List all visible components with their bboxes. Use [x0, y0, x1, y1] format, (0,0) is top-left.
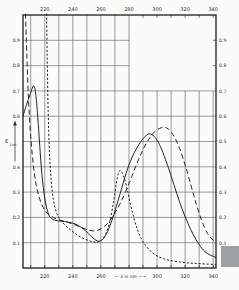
right-axis-label: 0.2 [219, 215, 226, 220]
top-axis-label: 260 [96, 6, 106, 12]
y-axis-arrowhead [13, 121, 17, 126]
curve-short-dash [47, 14, 216, 265]
right-axis-label: 0.5 [219, 139, 226, 144]
left-axis-label: 0.8 [13, 63, 20, 68]
top-axis-label: 220 [40, 6, 50, 12]
left-axis-label: 0.3 [13, 190, 20, 195]
right-axis-label: 0.6 [219, 114, 226, 119]
top-axis-label: 280 [124, 6, 134, 12]
left-axis-label: 0.2 [13, 215, 20, 220]
right-axis-label: 0.7 [219, 89, 226, 94]
top-axis-label: 320 [180, 6, 190, 12]
bottom-axis-label: 320 [180, 273, 190, 279]
bottom-axis-label: 300 [152, 273, 162, 279]
left-axis-label: 0.4 [13, 165, 20, 170]
right-axis-label: 0.9 [219, 38, 226, 43]
bottom-axis-label: 260 [96, 273, 106, 279]
left-axis-label: 0.9 [13, 38, 20, 43]
y-axis-title: E [5, 138, 8, 144]
curve-long-dash [26, 14, 217, 243]
right-axis-label: 0.1 [219, 241, 226, 246]
right-axis-label: 0.4 [219, 165, 226, 170]
top-axis-label: 300 [152, 6, 162, 12]
bottom-axis-label: 220 [40, 273, 50, 279]
scan-artifact [221, 246, 239, 267]
top-axis-label: 340 [208, 6, 218, 12]
bottom-axis-label: 340 [208, 273, 218, 279]
top-axis-label: 240 [68, 6, 78, 12]
y-axis-title-sub: 1cm [10, 143, 17, 147]
left-axis-label: 0.6 [13, 114, 20, 119]
left-axis-label: 0.1 [13, 241, 20, 246]
x-axis-title: — λ in nm —→ [115, 274, 146, 279]
bottom-axis-label: 240 [68, 273, 78, 279]
right-axis-label: 0.8 [219, 63, 226, 68]
right-axis-label: 0.3 [219, 190, 226, 195]
absorption-spectra-chart: 220240260280300320340220240260300320340—… [0, 0, 239, 290]
left-axis-label: 0.7 [13, 89, 20, 94]
scanned-page: 220240260280300320340220240260300320340—… [0, 0, 239, 290]
